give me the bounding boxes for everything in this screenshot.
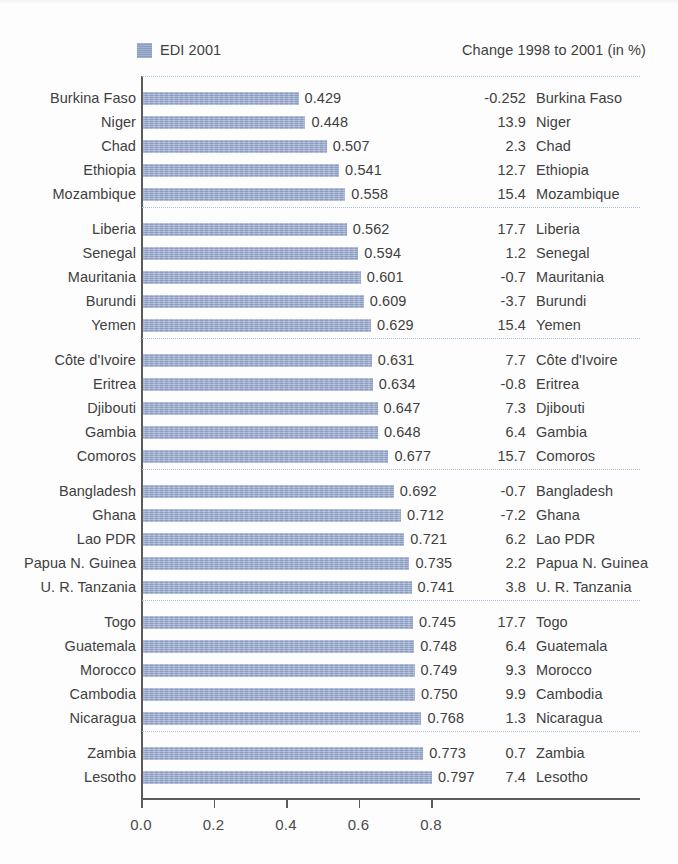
row-category-label-right: Zambia xyxy=(536,745,585,761)
row-category-label-right: Lao PDR xyxy=(536,531,595,547)
row-category-label-left: Morocco xyxy=(80,662,136,678)
bar-row: Lesotho0.7977.4Lesotho xyxy=(0,766,678,790)
row-category-label-left: Senegal xyxy=(82,245,136,261)
bar xyxy=(143,485,394,498)
change-value-label: -0.7 xyxy=(430,269,526,285)
change-value-label: 15.4 xyxy=(430,317,526,333)
change-column-header: Change 1998 to 2001 (in %) xyxy=(462,42,646,58)
row-category-label-right: Cambodia xyxy=(536,686,603,702)
row-category-label-left: Ghana xyxy=(92,507,136,523)
row-category-label-right: Morocco xyxy=(536,662,592,678)
legend-label: EDI 2001 xyxy=(160,42,221,58)
bar-value-label: 0.631 xyxy=(378,352,415,368)
bar xyxy=(143,450,388,463)
row-category-label-right: Togo xyxy=(536,614,568,630)
row-category-label-right: Senegal xyxy=(536,245,590,261)
bar-row: Ethiopia0.54112.7Ethiopia xyxy=(0,159,678,183)
row-category-label-left: Cambodia xyxy=(70,686,137,702)
bar-value-label: 0.601 xyxy=(367,269,404,285)
group-separator xyxy=(142,600,640,602)
row-category-label-right: Ghana xyxy=(536,507,580,523)
scan-artifact xyxy=(0,0,678,4)
row-category-label-right: Yemen xyxy=(536,317,581,333)
bar-row: Cambodia0.7509.9Cambodia xyxy=(0,683,678,707)
x-axis-tick-label: 0.4 xyxy=(275,816,296,833)
change-value-label: 15.7 xyxy=(430,448,526,464)
row-category-label-right: Côte d'Ivoire xyxy=(536,352,618,368)
bar xyxy=(143,533,404,546)
bar xyxy=(143,295,364,308)
row-category-label-left: Ethiopia xyxy=(83,162,136,178)
row-category-label-left: Burundi xyxy=(86,293,136,309)
change-value-label: -0.7 xyxy=(430,483,526,499)
bar-value-label: 0.609 xyxy=(370,293,407,309)
bar-row: Morocco0.7499.3Morocco xyxy=(0,659,678,683)
bar-value-label: 0.507 xyxy=(333,138,370,154)
bar-row: Côte d'Ivoire0.6317.7Côte d'Ivoire xyxy=(0,349,678,373)
bar xyxy=(143,688,415,701)
row-category-label-left: Mauritania xyxy=(68,269,136,285)
bar-value-label: 0.648 xyxy=(384,424,421,440)
bar-row: Guatemala0.7486.4Guatemala xyxy=(0,635,678,659)
row-category-label-right: Liberia xyxy=(536,221,580,237)
bar xyxy=(143,188,345,201)
row-category-label-right: Gambia xyxy=(536,424,587,440)
bar-row: Burkina Faso0.429-0.252Burkina Faso xyxy=(0,87,678,111)
bar xyxy=(143,402,378,415)
bar-row: U. R. Tanzania0.7413.8U. R. Tanzania xyxy=(0,576,678,600)
row-category-label-left: Côte d'Ivoire xyxy=(54,352,136,368)
bar xyxy=(143,771,432,784)
x-axis-tick-label: 0.6 xyxy=(348,816,369,833)
row-category-label-left: Lesotho xyxy=(84,769,136,785)
row-category-label-left: Niger xyxy=(101,114,136,130)
change-value-label: -7.2 xyxy=(430,507,526,523)
change-value-label: 2.2 xyxy=(430,555,526,571)
change-value-label: 2.3 xyxy=(430,138,526,154)
chart-container: EDI 2001 Change 1998 to 2001 (in %) Burk… xyxy=(0,0,678,864)
bar xyxy=(143,223,347,236)
row-category-label-right: Comoros xyxy=(536,448,595,464)
bar-value-label: 0.429 xyxy=(305,90,342,106)
legend-square-icon xyxy=(137,43,152,58)
bar xyxy=(143,509,401,522)
bar xyxy=(143,378,373,391)
row-category-label-right: Mozambique xyxy=(536,186,620,202)
bar-value-label: 0.558 xyxy=(351,186,388,202)
row-category-label-left: Lao PDR xyxy=(77,531,136,547)
row-category-label-left: Djibouti xyxy=(87,400,136,416)
bar-row: Nicaragua0.7681.3Nicaragua xyxy=(0,707,678,731)
x-axis-tick-mark xyxy=(359,800,361,808)
row-category-label-right: Lesotho xyxy=(536,769,588,785)
bar xyxy=(143,271,361,284)
row-category-label-left: Chad xyxy=(101,138,136,154)
bar xyxy=(143,640,414,653)
row-category-label-right: Burkina Faso xyxy=(536,90,622,106)
bar xyxy=(143,581,412,594)
legend: EDI 2001 xyxy=(137,42,221,58)
bar-row: Ghana0.712-7.2Ghana xyxy=(0,504,678,528)
x-axis-tick-mark xyxy=(141,800,143,808)
group-separator xyxy=(142,207,640,209)
bar-value-label: 0.541 xyxy=(345,162,382,178)
bar xyxy=(143,712,421,725)
change-value-label: -0.252 xyxy=(430,90,526,106)
bar xyxy=(143,164,339,177)
bar xyxy=(143,664,415,677)
row-category-label-right: Burundi xyxy=(536,293,586,309)
change-value-label: 0.7 xyxy=(430,745,526,761)
x-axis-baseline xyxy=(141,798,640,800)
row-category-label-right: Eritrea xyxy=(536,376,579,392)
row-category-label-left: Papua N. Guinea xyxy=(24,555,136,571)
change-value-label: 9.9 xyxy=(430,686,526,702)
row-category-label-left: Comoros xyxy=(77,448,136,464)
row-category-label-left: Yemen xyxy=(91,317,136,333)
row-category-label-right: Niger xyxy=(536,114,571,130)
group-separator xyxy=(142,338,640,340)
bar-row: Mozambique0.55815.4Mozambique xyxy=(0,183,678,207)
bar-row: Togo0.74517.7Togo xyxy=(0,611,678,635)
x-axis-tick-label: 0.0 xyxy=(130,816,151,833)
row-category-label-left: Eritrea xyxy=(93,376,136,392)
bar-row: Chad0.5072.3Chad xyxy=(0,135,678,159)
bar xyxy=(143,747,423,760)
change-value-label: 7.7 xyxy=(430,352,526,368)
